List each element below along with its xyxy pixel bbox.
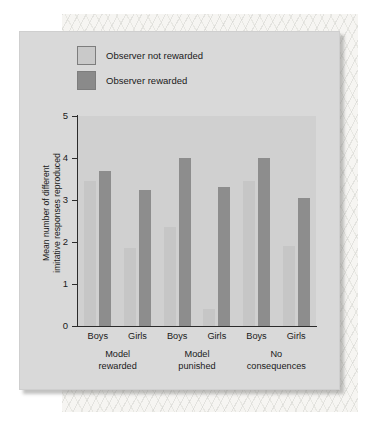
- bar: [179, 158, 191, 326]
- x-axis-group-label-line-1: No: [233, 348, 319, 360]
- bar: [243, 181, 255, 326]
- x-axis-group-label-line-1: Model: [75, 348, 161, 360]
- bar: [203, 309, 215, 326]
- y-axis-tick-label: 1: [54, 279, 68, 289]
- y-axis-line: [77, 115, 78, 327]
- x-axis-group-label: Modelpunished: [154, 348, 240, 372]
- bar: [84, 181, 96, 326]
- y-axis-title-line-1: Mean number of different: [41, 123, 52, 303]
- bar: [258, 158, 270, 326]
- x-axis-group-label: Noconsequences: [233, 348, 319, 372]
- y-axis-tick-mark: [72, 284, 78, 285]
- bar: [124, 248, 136, 326]
- x-axis-sub-label: Boys: [157, 332, 197, 341]
- bar: [283, 246, 295, 326]
- y-axis-tick-label: 2: [54, 237, 68, 247]
- y-axis-tick-mark: [72, 158, 78, 159]
- y-axis-tick-mark: [72, 242, 78, 243]
- y-axis-tick-label: 5: [54, 111, 68, 121]
- x-axis-line: [77, 326, 317, 327]
- plot-area: [78, 116, 316, 326]
- bar: [298, 198, 310, 326]
- y-axis-title-line-2: imitative responses reproduced: [52, 123, 63, 303]
- bar: [218, 187, 230, 326]
- x-axis-sub-label: Girls: [118, 332, 158, 341]
- y-axis-tick-label: 4: [54, 153, 68, 163]
- y-axis-title: Mean number of different imitative respo…: [41, 123, 63, 303]
- x-axis-group-label-line-2: rewarded: [75, 360, 161, 372]
- x-axis-sub-label: Boys: [237, 332, 277, 341]
- x-axis-sub-label: Girls: [197, 332, 237, 341]
- y-axis-tick-label: 3: [54, 195, 68, 205]
- bar: [99, 171, 111, 326]
- x-axis-sub-label: Boys: [78, 332, 118, 341]
- y-axis-tick-label: 0: [54, 321, 68, 331]
- x-axis-group-label-line-2: consequences: [233, 360, 319, 372]
- plot-wrapper: Mean number of different imitative respo…: [20, 32, 341, 391]
- x-axis-group-label-line-1: Model: [154, 348, 240, 360]
- x-axis-group-label-line-2: punished: [154, 360, 240, 372]
- bar: [164, 227, 176, 326]
- y-axis-tick-mark: [72, 200, 78, 201]
- x-axis-sub-label: Girls: [276, 332, 316, 341]
- figure-card: Observer not rewarded Observer rewarded …: [19, 31, 340, 390]
- y-axis-tick-mark: [72, 116, 78, 117]
- y-axis-tick-mark: [72, 326, 78, 327]
- bar: [139, 190, 151, 327]
- x-axis-group-label: Modelrewarded: [75, 348, 161, 372]
